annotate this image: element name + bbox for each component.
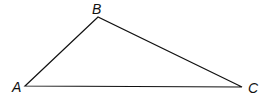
vertex-label-a: A (11, 79, 21, 95)
vertex-label-b: B (92, 1, 101, 17)
triangle-diagram: A B C (0, 0, 264, 95)
vertex-label-c: C (248, 80, 259, 95)
triangle-abc (25, 17, 242, 87)
